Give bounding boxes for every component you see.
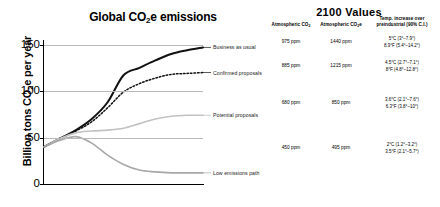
values-table-panel: 2100 Values Atmospheric CO2 Atmospheric … xyxy=(258,0,440,207)
table-row-2-co2e: 850 ppm xyxy=(310,100,372,107)
y-tick-mark-100 xyxy=(40,91,44,92)
table-row-3-co2e: 495 ppm xyxy=(310,145,372,152)
series-line-potential-proposals xyxy=(44,115,203,147)
gridline-y-150 xyxy=(44,45,203,46)
series-line-business-as-usual xyxy=(44,47,203,146)
table-row-0-co2e: 1440 ppm xyxy=(310,39,372,46)
column-header-co2e-sub: 2 xyxy=(357,24,359,28)
table-row-3-temp-c: 2°C (1.2°–3.2°) xyxy=(366,142,438,148)
plot-area: 050100150200020202040206020802100Busines… xyxy=(44,40,203,184)
chart-title: Global CO2e emissions xyxy=(58,10,248,24)
y-tick-mark-150 xyxy=(40,45,44,46)
series-label-low-emissions-path: Low emissions path xyxy=(213,170,259,176)
column-header-co2e-text: Atmospheric CO xyxy=(320,22,357,27)
column-header-temp: Temp. increase over preindustrial (90% C… xyxy=(366,16,438,28)
y-tick-label-0: 0 xyxy=(14,178,40,190)
series-curves xyxy=(44,40,203,184)
y-tick-mark-0 xyxy=(40,184,44,185)
column-header-co2e: Atmospheric CO2e xyxy=(310,22,372,28)
table-row-0-temp-f: 8.9°F (5.4°–14.2°) xyxy=(366,43,438,49)
column-header-co2-text: Atmospheric CO xyxy=(272,22,309,27)
y-tick-label-50: 50 xyxy=(14,132,40,144)
series-line-low-emissions-path xyxy=(44,137,203,173)
column-header-co2e-post: e xyxy=(359,22,362,27)
table-row-2-temp-c: 3.6°C (2.1°–7.6°) xyxy=(366,97,438,103)
y-tick-label-100: 100 xyxy=(14,85,40,97)
y-axis-label-pre: Billion tons CO xyxy=(21,90,33,166)
chart-figure: Global CO2e emissions Billion tons CO2e … xyxy=(0,0,440,207)
series-label-confirmed-proposals: Confirmed proposals xyxy=(213,70,262,76)
table-row-2-temp-f: 6.3°F (3.8°–10°) xyxy=(366,104,438,110)
series-label-potential-proposals: Potential proposals xyxy=(213,112,258,118)
chart-title-post: e emissions xyxy=(150,10,217,24)
emissions-chart-panel: Global CO2e emissions Billion tons CO2e … xyxy=(0,0,258,207)
table-row-1-temp-c: 4.5°C (2.7°–7.1°) xyxy=(366,60,438,66)
table-row-1-temp-f: 8°F (4.8°–12.8°) xyxy=(366,67,438,73)
gridline-y-100 xyxy=(44,91,203,92)
table-row-3-temp-f: 3.5°F (2.1°–5.7°) xyxy=(366,149,438,155)
chart-title-sub: 2 xyxy=(146,16,150,25)
table-row-1-co2e: 1215 ppm xyxy=(310,63,372,70)
series-label-business-as-usual: Business as usual xyxy=(213,44,256,50)
y-tick-mark-50 xyxy=(40,138,44,139)
table-row-0-temp-c: 5°C (3°–7.9°) xyxy=(366,36,438,42)
x-axis-line xyxy=(43,184,204,185)
gridline-y-50 xyxy=(44,138,203,139)
column-header-temp-line2: preindustrial (90% C.I.) xyxy=(366,22,438,28)
y-tick-label-150: 150 xyxy=(14,39,40,51)
chart-title-pre: Global CO xyxy=(89,10,146,24)
